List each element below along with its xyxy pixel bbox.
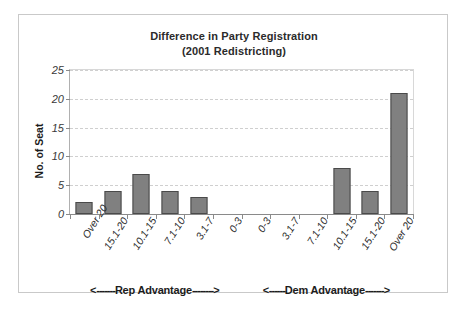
rep-dashes-right: -------- — [192, 284, 213, 296]
bar-slot — [242, 70, 271, 214]
bar-slot — [270, 70, 299, 214]
bar[interactable] — [76, 202, 93, 214]
bar[interactable] — [362, 191, 379, 214]
x-tick-label: Over 20 — [79, 215, 101, 240]
x-axis-labels: Over 2015.1-2010.1-157.1-103.1-70-30-33.… — [69, 215, 412, 277]
y-tick-label: 5 — [58, 179, 64, 191]
bar-slot — [299, 70, 328, 214]
bar-slot — [127, 70, 156, 214]
bar[interactable] — [333, 168, 350, 214]
rep-dashes-left: ------- — [96, 284, 115, 296]
chart-frame: Difference in Party Registration (2001 R… — [18, 14, 448, 293]
bar[interactable] — [162, 191, 179, 214]
chart-title-line1: Difference in Party Registration — [150, 30, 318, 42]
dem-advantage-label: Dem Advantage — [285, 284, 365, 296]
bar[interactable] — [133, 174, 150, 214]
bars-layer — [70, 70, 413, 214]
bar-slot — [213, 70, 242, 214]
rep-advantage-label: Rep Advantage — [115, 284, 192, 296]
dem-advantage-annotation: <------Dem Advantage-------> — [241, 281, 413, 299]
y-tick-label: 0 — [58, 208, 64, 220]
chart-title-line2: (2001 Redistricting) — [19, 44, 449, 59]
bar-slot — [327, 70, 356, 214]
bar-slot — [70, 70, 99, 214]
rep-arrow-right: > — [213, 284, 219, 296]
bar-slot — [356, 70, 385, 214]
plot-area: 0510152025 — [69, 69, 414, 215]
dem-arrow-right: > — [384, 284, 390, 296]
y-tick-label: 10 — [52, 150, 64, 162]
dem-dashes-left: ------ — [269, 284, 285, 296]
bar-slot — [384, 70, 413, 214]
bar[interactable] — [190, 197, 207, 214]
bar-slot — [156, 70, 185, 214]
y-axis-title: No. of Seat — [33, 111, 45, 191]
y-tick-label: 20 — [52, 93, 64, 105]
chart-title: Difference in Party Registration (2001 R… — [19, 29, 449, 59]
advantage-annotations: <-------Rep Advantage--------> <------De… — [69, 281, 412, 299]
rep-advantage-annotation: <-------Rep Advantage--------> — [69, 281, 241, 299]
y-tick-label: 15 — [52, 122, 64, 134]
bar-slot — [99, 70, 128, 214]
bar[interactable] — [390, 93, 407, 214]
x-tick-mark — [413, 214, 414, 219]
y-tick-label: 25 — [52, 64, 64, 76]
bar-slot — [184, 70, 213, 214]
dem-dashes-right: ------- — [365, 284, 384, 296]
